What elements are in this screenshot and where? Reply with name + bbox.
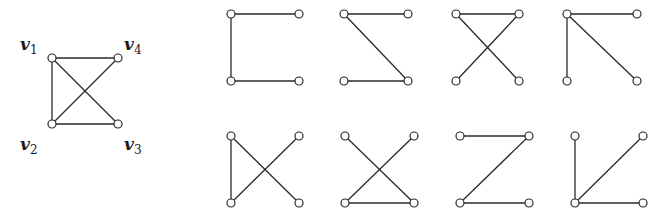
label-v2: v2 — [20, 134, 38, 157]
vertex-TR — [525, 132, 533, 140]
spanning-tree-5 — [227, 132, 303, 207]
vertex-TL — [340, 10, 348, 18]
vertex-TL — [227, 132, 235, 140]
spanning-tree-3 — [452, 10, 523, 85]
vertex-TR — [639, 132, 647, 140]
vertex-TR — [404, 10, 412, 18]
spanning-tree-8 — [571, 132, 647, 207]
vertex-TR — [410, 132, 418, 140]
spanning-trees — [227, 10, 647, 207]
vertex-v4 — [114, 54, 122, 62]
vertex-TL — [563, 10, 571, 18]
vertex-BR — [639, 199, 647, 207]
spanning-tree-7 — [456, 132, 533, 207]
spanning-tree-4 — [563, 10, 641, 85]
vertex-v1 — [48, 54, 56, 62]
label-v4: v4 — [124, 34, 142, 57]
vertex-TR — [633, 10, 641, 18]
edge-TR-BL — [460, 136, 529, 203]
vertex-TL — [456, 132, 464, 140]
vertex-BL — [563, 77, 571, 85]
vertex-BR — [404, 77, 412, 85]
vertex-v3 — [114, 120, 122, 128]
vertex-BL — [456, 199, 464, 207]
label-v1: v1 — [20, 34, 38, 57]
label-v3: v3 — [124, 134, 142, 157]
edge-TL-BR — [567, 14, 637, 81]
vertex-TL — [341, 132, 349, 140]
main-graph — [48, 54, 122, 128]
spanning-tree-6 — [341, 132, 418, 207]
vertex-v2 — [48, 120, 56, 128]
edge-BL-TR — [575, 136, 643, 203]
spanning-tree-2 — [340, 10, 412, 85]
vertex-BR — [525, 199, 533, 207]
vertex-BL — [227, 199, 235, 207]
vertex-BL — [340, 77, 348, 85]
vertex-BR — [633, 77, 641, 85]
spanning-tree-1 — [227, 10, 303, 85]
vertex-TR — [515, 10, 523, 18]
vertex-BL — [341, 199, 349, 207]
graph-canvas — [0, 0, 658, 219]
vertex-BR — [410, 199, 418, 207]
vertex-BL — [452, 77, 460, 85]
vertex-BR — [515, 77, 523, 85]
vertex-BR — [295, 199, 303, 207]
vertex-TL — [227, 10, 235, 18]
vertex-BL — [227, 77, 235, 85]
edge-TL-BR — [344, 14, 408, 81]
vertex-TR — [295, 10, 303, 18]
vertex-BL — [571, 199, 579, 207]
vertex-BR — [295, 77, 303, 85]
vertex-TR — [295, 132, 303, 140]
vertex-TL — [452, 10, 460, 18]
vertex-TL — [571, 132, 579, 140]
